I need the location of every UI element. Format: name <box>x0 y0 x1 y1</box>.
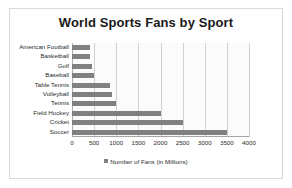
x-tick-label: 4000 <box>242 139 256 146</box>
bar <box>72 54 90 59</box>
bar-row: Table Tennis <box>72 81 249 90</box>
legend-label: Number of Fans (in Millions) <box>110 158 187 165</box>
bar <box>72 45 90 50</box>
category-label: Golf <box>58 61 69 70</box>
category-label: American Football <box>19 42 69 51</box>
x-tick-label: 0 <box>70 139 73 146</box>
bar <box>72 64 92 69</box>
x-tick-label: 1000 <box>109 139 123 146</box>
bar <box>72 111 161 116</box>
chart-title: World Sports Fans by Sport <box>10 15 282 30</box>
category-label: Soccer <box>50 127 69 136</box>
bar <box>72 130 227 135</box>
bar <box>72 101 116 106</box>
bar-row: American Football <box>72 43 249 52</box>
plot-area: American FootballBasketballGolfBaseballT… <box>72 43 249 137</box>
bar-row: Field Hockey <box>72 109 249 118</box>
x-tick-label: 2500 <box>176 139 190 146</box>
x-tick-label: 3000 <box>198 139 212 146</box>
x-tick-label: 3500 <box>220 139 234 146</box>
category-label: Tennis <box>51 98 69 107</box>
category-label: Table Tennis <box>35 80 69 89</box>
bar-row: Baseball <box>72 71 249 80</box>
bar <box>72 120 183 125</box>
x-tick-label: 1500 <box>131 139 145 146</box>
bar-row: Cricket <box>72 118 249 127</box>
gridline <box>249 43 250 137</box>
x-axis-line <box>72 136 249 137</box>
chart-container: World Sports Fans by Sport American Foot… <box>9 8 283 179</box>
category-label: Basketball <box>40 51 69 60</box>
bar-row: Volleyball <box>72 90 249 99</box>
bar <box>72 92 112 97</box>
bar <box>72 83 110 88</box>
legend-square-marker <box>104 159 108 163</box>
category-label: Baseball <box>45 70 69 79</box>
x-tick-label: 500 <box>89 139 99 146</box>
bar-row: Tennis <box>72 99 249 108</box>
chart-legend: Number of Fans (in Millions) <box>10 157 282 165</box>
category-label: Cricket <box>50 117 69 126</box>
bar-row: Basketball <box>72 52 249 61</box>
x-tick-label: 2000 <box>154 139 168 146</box>
bar-row: Golf <box>72 62 249 71</box>
bar <box>72 73 94 78</box>
category-label: Volleyball <box>43 89 69 98</box>
category-label: Field Hockey <box>33 108 69 117</box>
